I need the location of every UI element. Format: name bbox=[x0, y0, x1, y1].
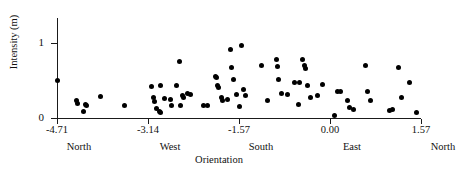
data-point bbox=[292, 80, 297, 85]
data-point bbox=[225, 97, 230, 102]
data-point bbox=[390, 107, 395, 112]
x-tick-label: 0.00 bbox=[308, 124, 352, 136]
data-point bbox=[243, 93, 248, 98]
data-point bbox=[228, 47, 233, 52]
data-point bbox=[279, 91, 284, 96]
data-point bbox=[81, 109, 86, 114]
x-tick-label: -3.14 bbox=[126, 124, 170, 136]
x-tick-label: -4.71 bbox=[35, 124, 79, 136]
data-point bbox=[275, 64, 280, 69]
data-point bbox=[55, 78, 60, 83]
x-tick-label: -1.57 bbox=[217, 124, 261, 136]
data-point bbox=[229, 65, 234, 70]
data-point bbox=[365, 89, 370, 94]
data-point bbox=[237, 104, 242, 109]
data-point bbox=[214, 75, 219, 80]
data-point bbox=[296, 102, 301, 107]
data-point bbox=[332, 113, 337, 118]
data-point bbox=[274, 57, 279, 62]
x-axis-title: Orientation bbox=[0, 154, 438, 166]
x-direction-label: East bbox=[322, 141, 382, 153]
data-point bbox=[234, 92, 239, 97]
data-point bbox=[162, 96, 167, 101]
data-point bbox=[315, 93, 320, 98]
x-direction-label: North bbox=[49, 141, 109, 153]
data-point bbox=[158, 83, 163, 88]
data-point bbox=[168, 97, 173, 102]
y-tick-label: 1 bbox=[30, 37, 44, 48]
x-direction-label: North bbox=[413, 141, 460, 153]
data-point bbox=[84, 103, 89, 108]
y-axis-title: Intensity (m) bbox=[8, 0, 20, 97]
data-point bbox=[368, 98, 373, 103]
x-tick-label: 1.57 bbox=[399, 124, 443, 136]
data-point bbox=[178, 103, 183, 108]
data-point bbox=[188, 92, 193, 97]
x-direction-label: West bbox=[140, 141, 200, 153]
data-point bbox=[320, 82, 325, 87]
x-direction-label: South bbox=[231, 141, 291, 153]
data-point bbox=[285, 92, 290, 97]
y-tick-label: 0 bbox=[30, 112, 44, 123]
data-point bbox=[169, 103, 174, 108]
data-point bbox=[98, 94, 103, 99]
data-point bbox=[149, 84, 154, 89]
data-point bbox=[205, 103, 210, 108]
data-point bbox=[216, 85, 221, 90]
